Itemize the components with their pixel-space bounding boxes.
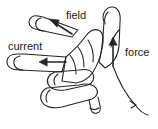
- fleming-left-hand-rule-diagram: field current force: [0, 0, 158, 129]
- force-label: force: [125, 47, 149, 58]
- current-arrow: [39, 58, 66, 66]
- wrist-line: [113, 66, 148, 115]
- field-label: field: [66, 10, 86, 21]
- palm-outline: [62, 30, 103, 83]
- current-label: current: [8, 41, 42, 52]
- index-finger-outline: [7, 54, 66, 72]
- thumb-outline: [99, 7, 120, 68]
- force-arrow: [109, 37, 117, 66]
